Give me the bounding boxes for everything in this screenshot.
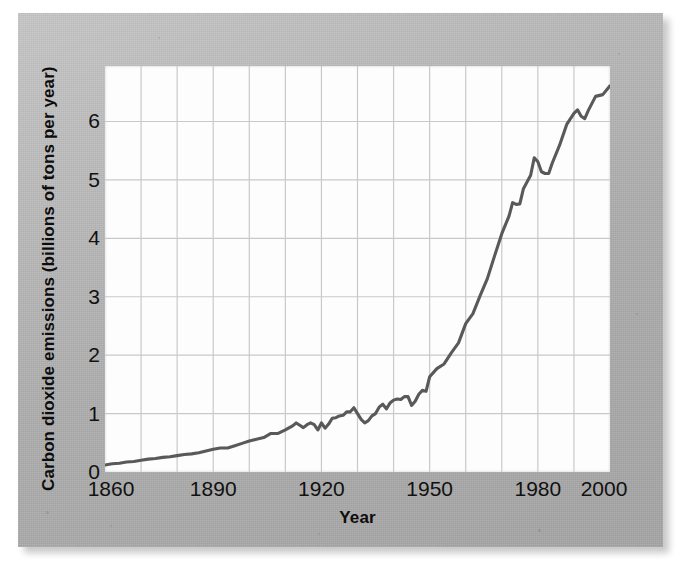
y-axis-title: Carbon dioxide emissions (billions of to… [39, 71, 59, 491]
scan-speck [158, 37, 160, 39]
scan-speck [318, 533, 320, 535]
y-tick-label-5: 5 [74, 169, 100, 190]
y-axis-tick-labels: 0123456 [66, 66, 100, 472]
scan-speck [46, 511, 49, 514]
y-tick-label-6: 6 [74, 110, 100, 131]
x-tick-label-1980: 1980 [514, 478, 561, 499]
x-tick-label-1890: 1890 [190, 478, 237, 499]
y-tick-label-2: 2 [74, 344, 100, 365]
x-axis-tick-labels: 186018901920195019802000 [105, 478, 610, 508]
figure-root: 0123456 186018901920195019802000 Year Ca… [0, 0, 698, 572]
scan-speck [538, 529, 541, 532]
y-tick-label-3: 3 [74, 286, 100, 307]
y-tick-label-1: 1 [74, 403, 100, 424]
x-axis-title: Year [105, 508, 610, 528]
x-tick-label-2000: 2000 [581, 478, 628, 499]
y-tick-label-4: 4 [74, 227, 100, 248]
chart-svg [105, 66, 610, 472]
scan-speck [618, 53, 620, 55]
scan-speck [636, 313, 638, 315]
x-tick-label-1920: 1920 [298, 478, 345, 499]
plot-panel [105, 66, 610, 472]
x-tick-label-1950: 1950 [406, 478, 453, 499]
x-tick-label-1860: 1860 [88, 478, 135, 499]
